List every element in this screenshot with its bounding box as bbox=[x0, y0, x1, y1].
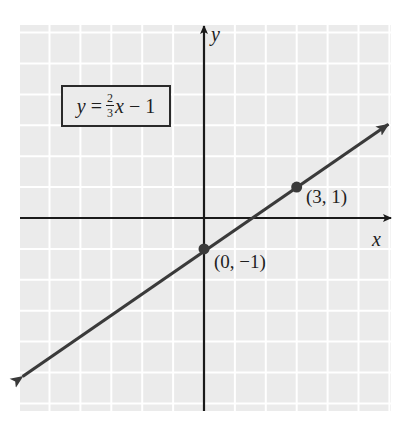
fraction-numerator: 2 bbox=[107, 92, 113, 104]
equation-variable: x bbox=[115, 95, 124, 118]
fraction-denominator: 3 bbox=[107, 107, 113, 119]
x-axis-label: x bbox=[372, 229, 381, 249]
equation-lhs: y bbox=[77, 95, 86, 118]
equation-rest: − 1 bbox=[129, 95, 155, 118]
data-point-0 bbox=[199, 243, 210, 254]
data-point-1 bbox=[291, 182, 302, 193]
equation-box: y = 2 3 x − 1 bbox=[61, 85, 171, 127]
point-label-0: (0, −1) bbox=[214, 252, 266, 271]
equation-fraction: 2 3 bbox=[106, 92, 114, 119]
coordinate-plane bbox=[0, 0, 403, 432]
y-axis-label: y bbox=[211, 24, 220, 44]
point-label-1: (3, 1) bbox=[306, 187, 347, 206]
equation-equals: = bbox=[91, 95, 102, 118]
